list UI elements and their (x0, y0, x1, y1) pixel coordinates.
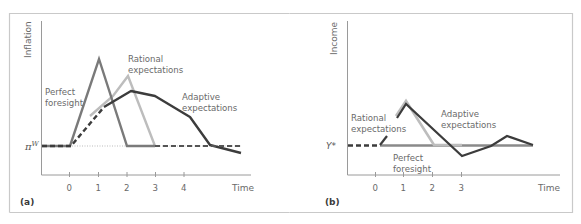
label-adaptive-expectations-a: Adaptiveexpectations (182, 92, 238, 113)
label-rational-expectations-a: Rationalexpectations (128, 54, 184, 75)
x-tick-label: 0 (373, 183, 378, 193)
y-axis-label-b: Income (329, 21, 339, 55)
series-adaptive-expectations-b-start (380, 136, 387, 145)
x-axis-label-b: Time (537, 183, 560, 193)
x-tick-label: 4 (181, 183, 186, 193)
x-tick-label: 3 (459, 183, 464, 193)
x-tick-label: 1 (96, 183, 101, 193)
series-adaptive-expectations-a (104, 91, 241, 153)
reference-label-y-star: Y* (326, 141, 336, 151)
x-tick-label: 1 (401, 183, 406, 193)
panel-b: Income 0 1 2 3 Time (b) Y* Rationalexpec… (325, 21, 560, 207)
panel-label-a: (a) (20, 197, 34, 207)
panel-label-b: (b) (325, 197, 340, 207)
label-adaptive-expectations-b: Adaptiveexpectations (441, 109, 497, 130)
x-tick-label: 0 (67, 183, 72, 193)
panel-a: Inflation 0 1 2 3 4 Time (a) πW Perfectf… (20, 21, 254, 207)
x-tick-label: 2 (430, 183, 435, 193)
x-tick-label: 2 (124, 183, 129, 193)
x-axis-label-a: Time (231, 183, 254, 193)
label-perfect-foresight-a: Perfectforesight (45, 87, 84, 108)
figure: Inflation 0 1 2 3 4 Time (a) πW Perfectf… (0, 0, 581, 224)
label-perfect-foresight-b: Perfectforesight (393, 153, 432, 174)
y-axis-label-a: Inflation (23, 21, 33, 58)
reference-label-pi-w: πW (24, 140, 40, 152)
x-tick-label: 3 (153, 183, 158, 193)
